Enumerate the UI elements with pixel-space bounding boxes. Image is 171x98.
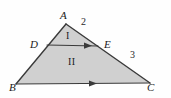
angle-label-2: 2: [81, 17, 86, 27]
vertex-label-D: D: [30, 39, 38, 50]
region-label-I: I: [66, 31, 70, 41]
region-label-II: II: [68, 57, 75, 67]
vertex-label-E: E: [104, 39, 111, 50]
vertex-label-A: A: [60, 10, 67, 21]
geometry-canvas: [0, 0, 171, 98]
vertex-label-C: C: [147, 82, 154, 93]
angle-label-3: 3: [130, 50, 135, 60]
geometry-figure: A B C D E 2 3 I II: [0, 0, 171, 98]
vertex-label-B: B: [9, 82, 16, 93]
